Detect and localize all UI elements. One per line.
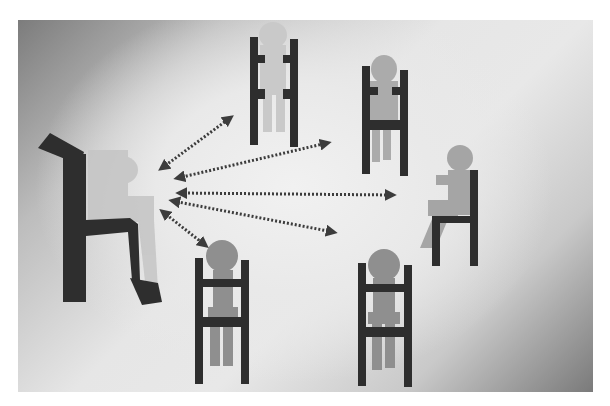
arrow-to-student-right [180, 193, 392, 195]
student-bottom-left [195, 240, 249, 384]
teacher-figure [38, 133, 162, 305]
student-top-right [362, 55, 408, 176]
communication-arrows [162, 118, 392, 245]
student-right [420, 145, 478, 266]
arrow-to-student-top-left [162, 118, 230, 168]
arrow-to-student-bottom-right [173, 201, 333, 232]
student-top-left [250, 22, 298, 147]
classroom-illustration [0, 0, 610, 406]
arrow-to-student-bottom-left [163, 212, 205, 245]
student-bottom-right [358, 249, 412, 387]
arrow-to-student-top-right [178, 143, 327, 178]
